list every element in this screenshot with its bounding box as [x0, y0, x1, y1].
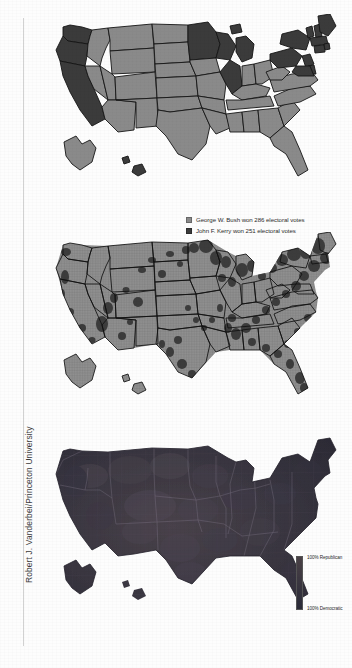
state-sd — [154, 42, 190, 64]
legend-swatch-democratic — [186, 228, 192, 234]
colorbar-label-republican: 100% Republican — [307, 555, 342, 560]
colorbar-gradient — [296, 556, 303, 610]
state-ny — [280, 30, 310, 50]
figure-state-map — [30, 14, 346, 210]
legend-label-bush: George W. Bush won 286 electoral votes — [196, 216, 305, 223]
state-ks — [156, 76, 198, 98]
state-vt — [306, 26, 314, 38]
legend-item-bush: George W. Bush won 286 electoral votes — [186, 215, 305, 224]
photo-credit: Robert J. Vanderbei/Princeton University — [24, 403, 34, 583]
state-co — [115, 72, 157, 100]
state-fl — [270, 126, 308, 176]
state-wi — [216, 32, 236, 60]
state-map-canvas — [30, 14, 346, 210]
state-mn — [188, 22, 220, 60]
figure-county-map — [30, 232, 346, 428]
state-az — [102, 100, 136, 132]
state-wy — [110, 48, 155, 74]
colorbar-label-democratic: 100% Democratic — [307, 606, 343, 611]
state-md — [292, 66, 314, 76]
purple-map-colorbar: 100% Republican 100% Democratic — [296, 552, 348, 614]
state-mt — [108, 24, 154, 51]
state-al — [242, 110, 260, 132]
state-map-legend: George W. Bush won 286 electoral votes J… — [186, 215, 305, 237]
legend-label-kerry: John F. Kerry won 251 electoral votes — [196, 227, 296, 234]
state-ne — [155, 62, 196, 78]
county-map-canvas — [30, 232, 346, 428]
state-ak — [64, 136, 96, 170]
legend-item-kerry: John F. Kerry won 251 electoral votes — [186, 226, 305, 235]
state-tx — [156, 108, 210, 160]
state-ct — [314, 45, 325, 53]
state-pa — [270, 48, 302, 68]
state-nd — [152, 24, 188, 44]
state-hi — [122, 156, 146, 176]
state-map-svg — [30, 14, 346, 210]
state-mo — [196, 72, 226, 100]
legend-swatch-republican — [186, 217, 192, 223]
state-me — [318, 14, 336, 36]
county-map-svg — [30, 232, 346, 428]
scanned-page: Robert J. Vanderbei/Princeton University — [0, 0, 352, 668]
state-id — [87, 28, 110, 66]
